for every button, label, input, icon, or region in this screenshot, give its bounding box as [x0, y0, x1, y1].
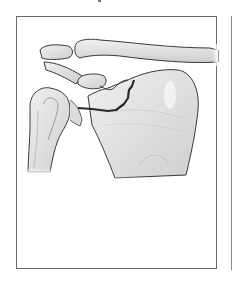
humeral-head: [26, 88, 72, 174]
clavicle: [75, 39, 218, 66]
shoulder-fracture-illustration: [0, 0, 233, 290]
glenoid: [70, 100, 82, 126]
